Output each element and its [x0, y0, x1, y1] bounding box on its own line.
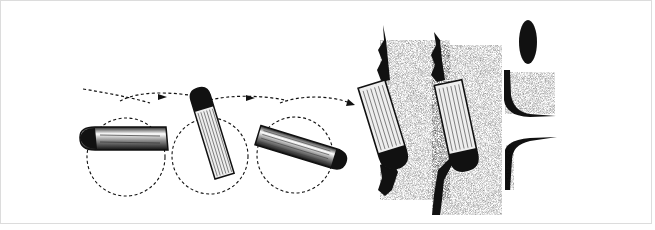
wound-channel-panel — [504, 20, 557, 190]
bullet-2 — [188, 85, 234, 179]
trajectory-path — [83, 89, 350, 103]
tissue-panel-2 — [431, 32, 502, 215]
bullet-3 — [255, 126, 349, 172]
bullet-1 — [80, 127, 168, 150]
bullet-tumble-diagram — [0, 0, 655, 230]
arrow-icon — [158, 94, 355, 106]
